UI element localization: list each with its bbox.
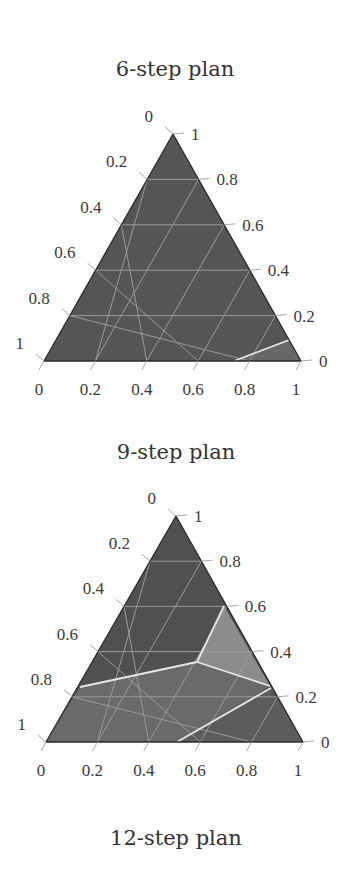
bottom-axis-label: 1 [294,761,303,780]
bottom-axis-tick [296,361,301,370]
left-axis-tick [90,645,98,652]
bottom-axis-tick [247,742,252,751]
ternary-plots-figure: 6-step plan0100.20.80.20.40.60.40.60.40.… [0,0,362,870]
bottom-axis-tick [193,361,198,370]
right-axis-label: 0 [321,733,330,752]
bottom-axis-tick [245,361,250,370]
bottom-axis-label: 0.6 [183,380,204,399]
plot-title-12-step: 12-step plan [110,826,242,850]
bottom-axis-label: 0 [37,761,46,780]
left-axis-label: 0.2 [106,152,127,171]
right-axis-tick [201,560,212,561]
bottom-axis-label: 0.4 [133,761,155,780]
left-axis-label: 1 [16,334,25,353]
left-axis-tick [139,172,147,179]
right-axis-tick [278,696,289,697]
bottom-axis-label: 0.6 [185,761,206,780]
right-axis-tick [250,269,261,270]
left-axis-tick [168,509,176,516]
bottom-axis-tick [92,742,97,751]
ternary-plot-9-step: 9-step plan0100.20.80.20.40.60.40.60.40.… [18,440,330,780]
ternary-plot-6-step: 6-step plan0100.20.80.20.40.60.40.60.40.… [16,57,328,399]
bottom-axis-tick [41,742,46,751]
bottom-axis-label: 0.8 [236,761,257,780]
left-axis-tick [62,309,70,316]
right-axis-tick [227,605,238,606]
bottom-axis-label: 1 [292,380,301,399]
left-axis-tick [88,263,96,270]
right-axis-label: 0.8 [217,170,238,189]
left-axis-label: 1 [18,715,27,734]
left-axis-tick [38,735,46,742]
right-axis-label: 0.4 [270,643,292,662]
plot-title: 6-step plan [116,57,234,81]
right-axis-tick [301,360,312,361]
left-axis-label: 0.4 [83,579,105,598]
left-axis-label: 0.4 [80,198,102,217]
right-axis-label: 0.6 [242,216,263,235]
left-axis-label: 0 [148,489,157,508]
bottom-axis-label: 0 [35,380,44,399]
bottom-axis-tick [39,361,44,370]
right-axis-label: 0.4 [268,261,290,280]
left-axis-tick [165,127,173,134]
plot-area [44,134,301,361]
bottom-axis-label: 0.8 [234,380,255,399]
bottom-axis-tick [144,742,149,751]
bottom-axis-label: 0.2 [80,380,101,399]
right-axis-label: 0.2 [293,307,314,326]
bottom-axis-tick [195,742,200,751]
left-axis-label: 0.2 [109,534,130,553]
bottom-axis-label: 0.4 [131,380,153,399]
plot-title: 9-step plan [117,440,235,464]
bottom-axis-tick [298,742,303,751]
left-axis-label: 0.6 [57,625,78,644]
right-axis-label: 0.6 [245,597,266,616]
right-axis-label: 0 [319,352,328,371]
left-axis-tick [64,690,72,697]
left-axis-tick [116,599,124,606]
left-axis-tick [142,554,150,561]
right-axis-tick [303,741,314,742]
bottom-axis-tick [142,361,147,370]
right-axis-tick [199,178,210,179]
right-axis-label: 1 [191,125,200,144]
left-axis-tick [113,218,121,225]
bottom-axis-label: 0.2 [82,761,103,780]
right-axis-tick [275,315,286,316]
bottom-axis-tick [90,361,95,370]
left-axis-label: 0.6 [54,243,75,262]
right-axis-tick [252,651,263,652]
right-axis-tick [173,133,184,134]
right-axis-label: 1 [194,507,203,526]
right-axis-tick [176,515,187,516]
right-axis-tick [224,224,235,225]
right-axis-label: 0.8 [219,552,240,571]
left-axis-label: 0.8 [31,670,52,689]
left-axis-label: 0.8 [29,289,50,308]
right-axis-label: 0.2 [296,688,317,707]
left-axis-label: 0 [145,107,154,126]
left-axis-tick [36,354,44,361]
